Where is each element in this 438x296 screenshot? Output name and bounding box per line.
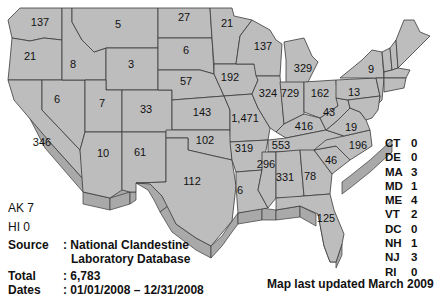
label-sd: 6 — [183, 44, 189, 56]
label-al: 331 — [276, 171, 294, 183]
label-ut: 7 — [99, 97, 105, 109]
label-va: 19 — [345, 121, 357, 133]
label-ky: 416 — [295, 120, 313, 132]
label-nm: 61 — [134, 146, 146, 158]
small-state-row: MA3 — [385, 165, 417, 179]
label-wi: 137 — [254, 40, 272, 52]
label-tx: 112 — [183, 175, 201, 187]
small-states-list: CT0 DE0 MA3 MD1 ME4 VT2 DC0 NH1 NJ3 RI0 — [385, 136, 417, 279]
state-ny[interactable] — [340, 50, 384, 78]
small-state-row: MD1 — [385, 179, 417, 193]
label-wa: 137 — [31, 16, 49, 28]
hawaii-count: HI 0 — [8, 220, 30, 234]
label-mi: 329 — [294, 62, 312, 74]
dates-line: Dates: 01/01/2008 – 12/31/2008 — [8, 283, 204, 296]
label-nv: 6 — [54, 93, 60, 105]
label-ks: 143 — [193, 106, 211, 118]
label-ar: 319 — [235, 142, 253, 154]
label-mt: 5 — [115, 18, 121, 30]
last-updated-note: Map last updated March 2009 — [267, 277, 434, 291]
label-ga: 78 — [304, 170, 316, 182]
state-ct-ri[interactable] — [384, 78, 406, 92]
label-oh: 162 — [311, 87, 329, 99]
state-az[interactable] — [80, 132, 122, 198]
label-wy: 3 — [128, 58, 134, 70]
state-fl[interactable] — [276, 194, 344, 262]
label-nc: 196 — [349, 139, 367, 151]
source-value-1: : National Clandestine — [63, 238, 189, 252]
label-fl: 125 — [317, 212, 335, 224]
label-mo: 1,471 — [231, 112, 259, 124]
label-ia: 192 — [221, 71, 239, 83]
label-in: 729 — [281, 87, 299, 99]
label-pa: 13 — [348, 86, 360, 98]
total-value: : 6,783 — [63, 269, 100, 283]
label-wv: 43 — [323, 106, 335, 118]
label-tn: 553 — [272, 139, 290, 151]
small-state-row: CT0 — [385, 136, 417, 150]
label-id: 8 — [70, 58, 76, 70]
label-il: 324 — [259, 87, 277, 99]
source-value-2: Laboratory Database — [71, 252, 190, 266]
label-ok: 102 — [196, 134, 214, 146]
label-co: 33 — [140, 103, 152, 115]
small-state-row: VT2 — [385, 207, 417, 221]
dates-value: : 01/01/2008 – 12/31/2008 — [63, 283, 204, 296]
label-ca: 346 — [33, 136, 51, 148]
source-label: Source — [8, 238, 63, 252]
small-state-row: DC0 — [385, 222, 417, 236]
source-line: Source: National Clandestine — [8, 238, 189, 252]
small-state-row: NH1 — [385, 236, 417, 250]
label-ms: 296 — [257, 158, 275, 170]
label-la: 6 — [237, 184, 243, 196]
label-nd: 27 — [178, 11, 190, 23]
state-me[interactable] — [396, 20, 430, 68]
label-mn: 21 — [221, 17, 233, 29]
small-state-row: NJ3 — [385, 250, 417, 264]
dates-label: Dates — [8, 283, 63, 296]
label-ny: 9 — [368, 63, 374, 75]
label-sc: 46 — [325, 154, 337, 166]
states — [8, 8, 430, 262]
alaska-count: AK 7 — [8, 201, 34, 215]
total-line: Total: 6,783 — [8, 269, 100, 283]
small-state-row: ME4 — [385, 193, 417, 207]
label-ne: 57 — [180, 75, 192, 87]
label-or: 21 — [24, 50, 36, 62]
small-state-row: DE0 — [385, 150, 417, 164]
total-label: Total — [8, 269, 63, 283]
label-az: 10 — [97, 147, 109, 159]
